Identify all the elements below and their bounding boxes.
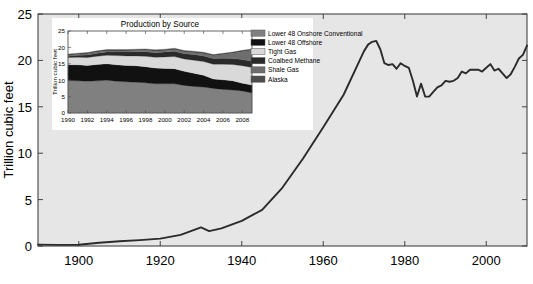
legend-label: Shale Gas: [268, 66, 299, 73]
inset-xtick-label: 2006: [216, 116, 230, 123]
inset-xtick-label: 1998: [139, 116, 153, 123]
inset-ytick-label: 15: [58, 60, 65, 67]
main-ytick-label: 20: [18, 53, 32, 68]
main-ytick-label: 10: [18, 146, 32, 161]
figure-canvas: 1900192019401960198020000510152025Trilli…: [0, 0, 533, 284]
inset-xtick-label: 2004: [197, 116, 211, 123]
legend-label: Alaska: [268, 76, 288, 83]
chart-svg: 1900192019401960198020000510152025Trilli…: [0, 0, 533, 284]
inset-xtick-label: 1996: [119, 116, 133, 123]
main-ylabel: Trillion cubic feet: [1, 81, 16, 178]
inset-ytick-label: 10: [58, 77, 65, 84]
inset-ytick-label: 0: [62, 109, 66, 116]
inset-xtick-label: 1990: [61, 116, 75, 123]
inset-ylabel: Trillion cubic feet: [51, 49, 58, 95]
main-xtick-label: 1940: [227, 253, 256, 268]
legend-label: Lower 48 Onshore Conventional: [268, 30, 363, 37]
legend-swatch-tight-gas: [251, 48, 265, 54]
legend-swatch-lower-48-offshore: [251, 39, 265, 45]
inset-xtick-label: 2008: [235, 116, 249, 123]
main-ytick-label: 25: [18, 7, 32, 22]
legend-label: Coalbed Methane: [268, 57, 320, 64]
inset-xtick-label: 1994: [100, 116, 114, 123]
legend-swatch-alaska: [251, 76, 265, 82]
legend-label: Tight Gas: [268, 48, 297, 56]
inset-xtick-label: 1992: [80, 116, 94, 123]
legend-swatch-shale-gas: [251, 67, 265, 73]
main-xtick-label: 1980: [390, 253, 419, 268]
main-xtick-label: 1920: [146, 253, 175, 268]
inset-xtick-label: 2002: [177, 116, 191, 123]
inset-title: Production by Source: [121, 20, 200, 29]
main-ytick-label: 15: [18, 100, 32, 115]
legend-swatch-lower-48-onshore-conventional: [251, 30, 265, 36]
legend-label: Lower 48 Offshore: [268, 39, 322, 46]
main-xtick-label: 1900: [64, 253, 93, 268]
inset-ytick-label: 25: [58, 27, 65, 34]
inset-stacked-areas: [68, 48, 252, 113]
inset-ytick-label: 20: [58, 44, 65, 51]
main-xtick-label: 2000: [472, 253, 501, 268]
main-xtick-label: 1960: [309, 253, 338, 268]
legend-swatch-coalbed-methane: [251, 58, 265, 64]
main-ytick-label: 5: [25, 193, 32, 208]
inset-ytick-label: 5: [62, 93, 66, 100]
main-ytick-label: 0: [25, 239, 32, 254]
inset-xtick-label: 2000: [158, 116, 172, 123]
